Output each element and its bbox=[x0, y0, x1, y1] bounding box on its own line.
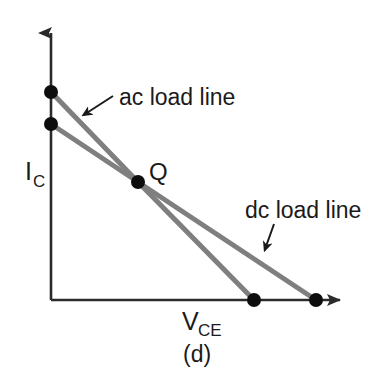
load-lines-group bbox=[51, 92, 316, 300]
ac-load-line bbox=[51, 92, 254, 300]
q-point-label: Q bbox=[149, 158, 168, 185]
labels-group: ac load line dc load line Q I C V CE (d) bbox=[25, 84, 361, 367]
figure-caption: (d) bbox=[183, 341, 211, 367]
load-line-chart-svg: ac load line dc load line Q I C V CE (d) bbox=[0, 0, 372, 380]
marker-ac-vce-cutoff bbox=[44, 117, 58, 131]
x-axis-label-main: V bbox=[182, 307, 199, 335]
y-axis-label-main: I bbox=[25, 157, 32, 185]
ac-load-line-arrow bbox=[83, 96, 113, 115]
data-point-markers-group bbox=[44, 85, 323, 307]
dc-load-line-label: dc load line bbox=[245, 197, 361, 223]
marker-ac-ic-saturation bbox=[44, 85, 58, 99]
annotation-arrows-group bbox=[83, 96, 274, 250]
dc-load-line-arrow bbox=[265, 224, 274, 250]
ac-load-line-label: ac load line bbox=[119, 84, 235, 110]
marker-dc-ic-saturation bbox=[131, 175, 145, 189]
load-line-figure: ac load line dc load line Q I C V CE (d) bbox=[0, 0, 372, 380]
axes-group bbox=[51, 33, 340, 300]
x-axis-label-subscript: CE bbox=[198, 321, 222, 340]
marker-q-point bbox=[247, 293, 261, 307]
marker-dc-vce-cutoff bbox=[309, 293, 323, 307]
y-axis-label-subscript: C bbox=[33, 172, 45, 191]
